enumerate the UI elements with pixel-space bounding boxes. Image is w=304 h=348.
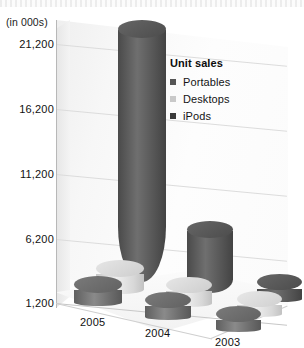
legend-swatch-desktops-icon bbox=[170, 96, 176, 102]
legend-item-desktops: Desktops bbox=[170, 93, 280, 105]
y-axis-line bbox=[56, 20, 57, 308]
x-tick-label-2004: 2004 bbox=[145, 327, 170, 339]
chart-screenshot: (in 000s) 21,200 16,200 11,200 6,200 1,2… bbox=[0, 0, 304, 348]
legend-swatch-ipods-icon bbox=[170, 113, 176, 119]
bar-2004-portables bbox=[145, 292, 191, 320]
plot-left-wall bbox=[56, 20, 70, 308]
x-tick-label-2003: 2003 bbox=[215, 336, 240, 348]
legend-title: Unit sales bbox=[170, 57, 280, 69]
legend-swatch-portables-icon bbox=[170, 79, 176, 85]
bar-2003-portables bbox=[216, 306, 261, 332]
legend-item-portables: Portables bbox=[170, 76, 280, 88]
y-tick-label-6200: 6,200 bbox=[2, 233, 54, 245]
y-tick-label-16200: 16,200 bbox=[2, 103, 54, 115]
bar-2005-ipods bbox=[118, 20, 166, 282]
y-tick-label-1200: 1,200 bbox=[2, 297, 54, 309]
bar-2005-portables bbox=[74, 276, 122, 306]
legend-item-ipods: iPods bbox=[170, 110, 280, 122]
legend-label-desktops: Desktops bbox=[183, 93, 230, 105]
legend-label-ipods: iPods bbox=[183, 110, 211, 122]
y-axis-unit-note: (in 000s) bbox=[6, 16, 48, 28]
y-tick-label-21200: 21,200 bbox=[2, 38, 54, 50]
y-tick-label-11200: 11,200 bbox=[2, 168, 54, 180]
x-tick-label-2005: 2005 bbox=[80, 316, 105, 328]
chart-legend: Unit sales Portables Desktops iPods bbox=[170, 57, 280, 127]
legend-label-portables: Portables bbox=[183, 76, 230, 88]
